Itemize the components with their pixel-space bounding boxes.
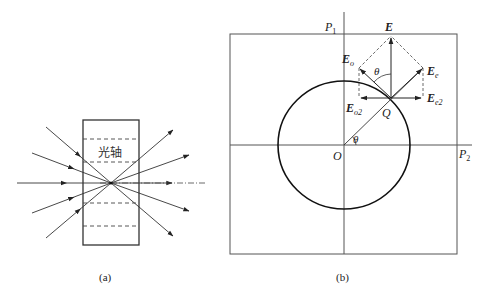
figure-a: 光轴 (a) [17,120,207,284]
ray-out-5 [111,183,173,236]
ray-in-5 [46,183,111,238]
label-p2: P2 [458,147,470,163]
focus-point [109,181,112,184]
label-ee: Ee [426,64,439,80]
label-q: Q [382,106,391,120]
figure-b: P1 P2 O Q θ θ E Eo Ee Eo2 Ee2 (b) [230,12,472,284]
optics-figure: 光轴 (a) [0,0,483,301]
label-e: E [384,20,393,34]
ray-out-2 [111,155,189,183]
label-eo: Eo [341,52,354,68]
label-theta-q: θ [374,65,380,77]
label-ee2: Ee2 [426,91,443,107]
caption-a: (a) [99,271,112,284]
ray-out-4 [111,183,189,211]
vector-ee [391,69,422,98]
label-p1: P1 [324,20,336,36]
label-origin: O [333,149,342,163]
caption-b: (b) [336,271,349,284]
incoming-rays [17,127,111,238]
ray-in-4 [32,183,111,213]
field-vectors [360,38,422,98]
label-theta-origin: θ [353,133,359,145]
label-eo2: Eo2 [345,101,362,117]
optic-axis-label: 光轴 [98,145,122,160]
